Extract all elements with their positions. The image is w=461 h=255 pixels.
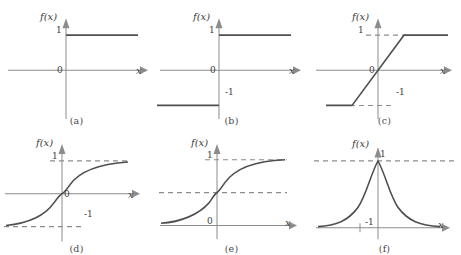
y-axis-label-f: f(x) (352, 139, 369, 149)
panel-f: f(x) 1 -1 x (f) (308, 128, 461, 255)
plot-f-gaussian-radial-basis (308, 128, 461, 255)
panel-b: f(x) 1 0 -1 x (b) (155, 0, 308, 127)
origin-label-e: 0 (207, 217, 213, 226)
y-axis-label-b: f(x) (193, 12, 210, 22)
origin-label-d: 0 (64, 190, 70, 199)
plot-b-symmetric-hard-limit (155, 0, 308, 127)
caption-d: (d) (0, 243, 153, 254)
x-axis-label-b: x (289, 66, 295, 76)
caption-f: (f) (308, 243, 461, 254)
caption-a: (a) (0, 115, 153, 126)
y-tick-1-e: 1 (207, 151, 213, 160)
activation-functions-figure: f(x) 1 0 x (a) f(x) 1 0 -1 x (b) (0, 0, 461, 255)
plot-c-saturating-linear (308, 0, 461, 127)
y-tick-1-b: 1 (209, 26, 215, 35)
x-axis-label-e: x (285, 218, 291, 228)
x-tick-neg1-f: -1 (365, 218, 374, 227)
panel-a: f(x) 1 0 x (a) (0, 0, 153, 127)
y-axis-label-a: f(x) (40, 12, 57, 22)
y-tick-1-c: 1 (358, 26, 364, 35)
y-tick-1-f: 1 (380, 150, 386, 159)
y-axis-label-c: f(x) (352, 12, 369, 22)
plot-a-hard-limit-step (0, 0, 153, 127)
x-axis-label-a: x (136, 66, 142, 76)
caption-b: (b) (155, 115, 308, 126)
origin-label-a: 0 (57, 66, 63, 75)
y-tick-neg1-b: -1 (225, 88, 234, 97)
caption-e: (e) (155, 243, 308, 254)
x-axis-label-c: x (440, 66, 446, 76)
x-axis-label-d: x (128, 190, 134, 200)
y-tick-1-d: 1 (52, 152, 58, 161)
y-axis-label-e: f(x) (191, 138, 208, 148)
y-axis-label-d: f(x) (36, 138, 53, 148)
plot-e-logistic-sigmoid (155, 128, 308, 255)
panel-c: f(x) 1 0 -1 x (c) (308, 0, 461, 127)
origin-label-b: 0 (210, 66, 216, 75)
panel-d: f(x) 1 0 -1 x (d) (0, 128, 153, 255)
origin-label-c: 0 (369, 66, 375, 75)
caption-c: (c) (308, 115, 461, 126)
x-axis-label-f: x (438, 220, 444, 230)
panel-e: f(x) 1 0 x (e) (155, 128, 308, 255)
y-tick-1-a: 1 (56, 26, 62, 35)
y-tick-neg1-c: -1 (396, 88, 405, 97)
y-tick-neg1-d: -1 (84, 210, 93, 219)
